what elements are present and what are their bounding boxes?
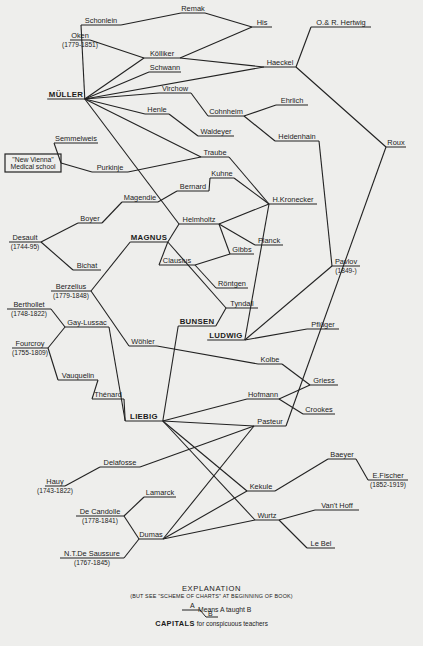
edge-fourcroy-gaylussac [48, 327, 65, 348]
node-label: Griess [313, 376, 335, 385]
node-label: Vauquelin [62, 371, 94, 380]
node-label: Schwann [150, 63, 180, 72]
legend-subtitle: (BUT SEE "SCHEME OF CHARTS" AT BEGINNING… [0, 593, 423, 599]
edge-kolliker-haeckel [180, 58, 264, 67]
node-label: Crookes [305, 405, 333, 414]
node-label: Pflüger [311, 320, 335, 329]
edge-remak-his [205, 13, 252, 27]
edge-liebig-wurtz [163, 421, 255, 520]
edge-magendie-bernard [158, 191, 177, 202]
edge-cohnheim-heidenhain [244, 116, 275, 141]
node-boyer: Boyer [78, 214, 102, 223]
edge-boyer-magendie [102, 202, 122, 223]
node-dates: (1849-) [335, 267, 356, 275]
edge-bunsen-liebig [163, 326, 178, 421]
edge-magnus-tyndall [168, 242, 226, 308]
edge-muller-kolliker [85, 58, 144, 99]
edge-kolbe-griess [282, 364, 310, 385]
edge-muller-helmholtz [85, 99, 179, 224]
node-saussure: N.T.De Saussure(1767-1845) [60, 549, 124, 567]
edge-liebig-kekule [163, 421, 247, 491]
node-bunsen: BUNSEN [178, 317, 216, 326]
node-berthollet: Berthollet(1748-1822) [7, 300, 51, 318]
legend-capitals-note: CAPITALS for conspicuous teachers [0, 619, 423, 628]
edge-muller-traube [85, 99, 201, 157]
node-berzelius: Berzelius(1779-1848) [51, 282, 91, 300]
node-label: Semmelweis [55, 134, 97, 143]
node-virchow: Virchow [159, 84, 191, 93]
node-henle: Henle [145, 105, 169, 114]
node-his: His [252, 18, 272, 27]
edge-dumas-kekule [163, 491, 247, 539]
node-label: Virchow [162, 84, 189, 93]
node-label: His [257, 18, 268, 27]
node-lamarck: Lamarck [144, 488, 176, 497]
node-label: MAGNUS [131, 233, 167, 242]
node-label: Pasteur [257, 417, 283, 426]
node-kuhne: Kuhne [210, 169, 234, 178]
node-label: LIEBIG [130, 412, 158, 421]
node-label: Baeyer [330, 450, 354, 459]
node-dates: (1743-1822) [37, 487, 73, 495]
node-purkinje: Purkinje [92, 163, 128, 172]
node-efischer: E.Fischer(1852-1919) [368, 471, 408, 489]
edge-hauy-delafosse [65, 467, 100, 486]
legend-capitals-rest: for conspicuous teachers [197, 620, 268, 627]
edge-bunsen-tyndall [216, 308, 226, 326]
edge-fourcroy-vauquelin [48, 348, 58, 380]
node-label: Helmholtz [183, 215, 216, 224]
node-dates: (1767-1845) [74, 559, 110, 567]
node-gibbs: Gibbs [230, 245, 254, 254]
node-waldeyer: Waldeyer [198, 127, 234, 136]
node-label: Fourcroy [15, 339, 44, 348]
node-magendie: Magendie [122, 193, 158, 202]
node-fourcroy: Fourcroy(1755-1809) [12, 339, 48, 357]
node-label: Gibbs [232, 245, 252, 254]
edge-wurtz-lebel [279, 520, 307, 548]
node-newvienna: "New Vienna"Medical school [5, 154, 61, 172]
node-dumas: Dumas [139, 530, 163, 539]
node-helmholtz: Helmholtz [179, 215, 219, 224]
node-label: Purkinje [97, 163, 124, 172]
node-dates: (1778-1841) [82, 517, 118, 525]
node-pfluger: Pflüger [307, 320, 339, 329]
legend-title: EXPLANATION [0, 584, 423, 593]
node-muller: MÜLLER [47, 90, 85, 99]
edge-kronecker-ludwig [245, 204, 269, 340]
connection-lines [41, 13, 386, 558]
node-kolbe: Kolbe [258, 355, 282, 364]
edge-baeyer-efischer [356, 459, 368, 480]
edge-decandolle-dumas [124, 516, 139, 539]
node-decandolle: De Candolle(1778-1841) [76, 507, 124, 525]
edge-helmholtz-planck [219, 224, 255, 245]
node-wurtz: Wurtz [255, 511, 279, 520]
edge-roux-pasteur [286, 147, 386, 426]
node-planck: Planck [255, 236, 283, 245]
node-bichat: Bichat [73, 261, 101, 270]
edge-bernard-kuhne [209, 178, 210, 191]
node-dates: (1744-95) [11, 243, 40, 251]
node-traube: Traube [201, 148, 229, 157]
node-label: Hofmann [248, 390, 278, 399]
edge-traube-kronecker [229, 157, 269, 204]
svg-text:Medical school: Medical school [11, 163, 56, 170]
node-label: E.Fischer [372, 471, 404, 480]
edge-decandolle-lamarck [124, 497, 144, 516]
node-label: Bichat [77, 261, 98, 270]
edge-desault-boyer [41, 223, 78, 242]
node-label: Gay-Lussac [67, 318, 107, 327]
node-label: Kölliker [150, 49, 175, 58]
node-lebel: Le Bel [307, 539, 335, 548]
node-label: Berthollet [13, 300, 44, 309]
edge-gaylussac-liebig [109, 327, 125, 421]
node-roux: Roux [386, 138, 406, 147]
edge-ludwig-pfluger [245, 329, 307, 340]
node-label: LUDWIG [209, 331, 242, 340]
node-hertwig: O.& R. Hertwig [311, 18, 371, 27]
node-label: Heidenhain [278, 132, 315, 141]
node-semmelweis: Semmelweis [54, 134, 98, 143]
node-label: Clausius [163, 256, 192, 265]
node-dates: (1779-1851) [62, 41, 98, 49]
node-label: Berzelius [56, 282, 87, 291]
node-kekule: Kekule [247, 482, 275, 491]
